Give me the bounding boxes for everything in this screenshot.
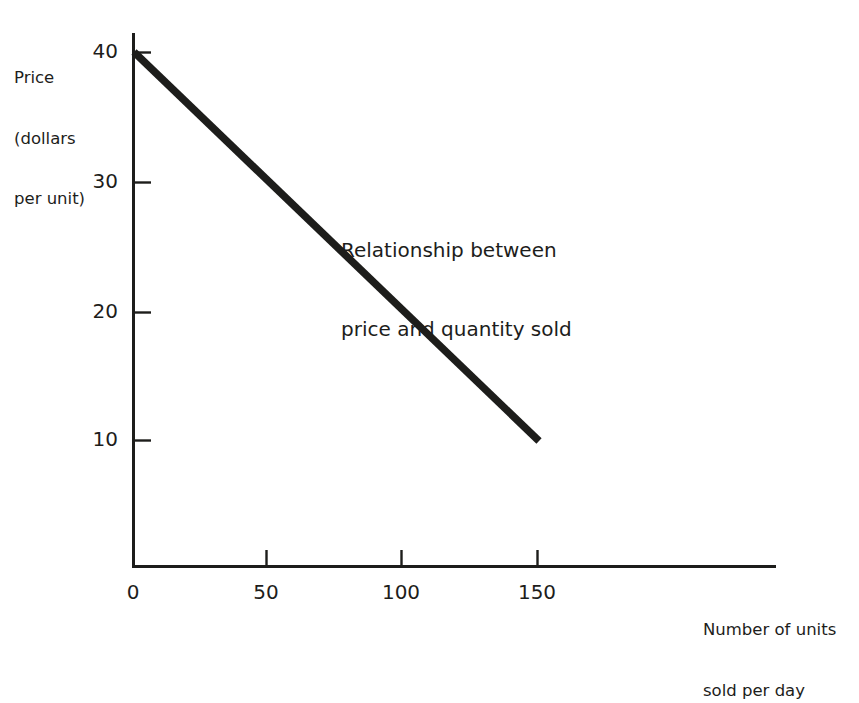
x-axis-title-line-2: sold per day [703, 681, 853, 701]
y-tick-label-30: 30 [58, 169, 118, 193]
y-axis-title-line-1: Price [14, 68, 134, 88]
y-tick-label-20: 20 [58, 299, 118, 323]
y-tick-label-40: 40 [58, 39, 118, 63]
x-tick-label-0: 0 [98, 580, 168, 604]
curve-annotation-line-1: Relationship between [341, 237, 572, 263]
y-axis-title-line-2: (dollars [14, 129, 134, 149]
curve-annotation: Relationship between price and quantity … [341, 184, 572, 395]
x-axis-title: Number of units sold per day [703, 580, 853, 703]
x-tick-label-150: 150 [502, 580, 572, 604]
x-tick-label-50: 50 [231, 580, 301, 604]
y-tick-label-10: 10 [58, 427, 118, 451]
x-tick-label-100: 100 [366, 580, 436, 604]
curve-annotation-line-2: price and quantity sold [341, 316, 572, 342]
x-axis-title-line-1: Number of units [703, 620, 853, 640]
